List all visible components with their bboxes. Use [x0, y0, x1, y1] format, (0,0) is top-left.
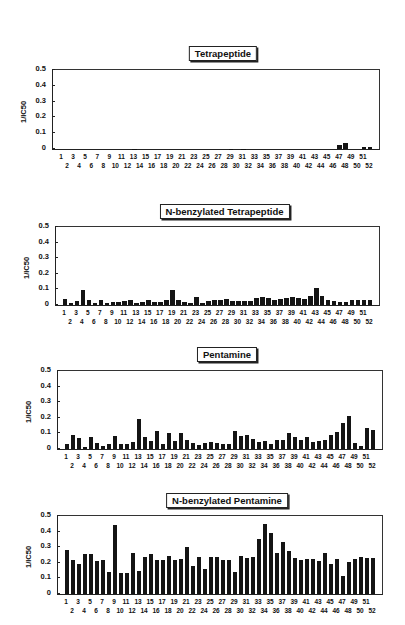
bar: [83, 554, 88, 594]
bar: [347, 562, 352, 594]
x-tick-label: 6: [94, 607, 98, 614]
x-tick-label: 49: [350, 453, 357, 460]
x-tick-label: 47: [338, 453, 345, 460]
bar: [242, 301, 247, 305]
y-tick-label: 0.2: [29, 268, 49, 277]
x-tick-label: 28: [222, 318, 229, 325]
x-tick-label: 37: [278, 453, 285, 460]
x-tick-label: 7: [100, 598, 104, 605]
y-tick-mark: [57, 531, 60, 532]
y-tick-label: 0.5: [31, 365, 51, 374]
bar: [143, 557, 148, 594]
bar: [209, 557, 214, 594]
bar: [137, 571, 142, 594]
x-tick-label: 50: [353, 162, 360, 169]
bar: [173, 560, 178, 594]
bar: [143, 437, 148, 449]
x-tick-label: 33: [251, 153, 258, 160]
x-tick-label: 4: [80, 318, 84, 325]
x-tick-label: 5: [88, 453, 92, 460]
bar: [116, 302, 121, 305]
bar: [101, 560, 106, 594]
x-tick-label: 45: [326, 453, 333, 460]
y-tick-label: 0.3: [26, 96, 46, 105]
x-tick-label: 38: [284, 462, 291, 469]
bar: [269, 444, 274, 449]
x-tick-label: 4: [77, 162, 81, 169]
y-tick-label: 0.4: [26, 80, 46, 89]
x-tick-label: 7: [98, 309, 102, 316]
bar: [71, 435, 76, 449]
x-tick-label: 34: [260, 607, 267, 614]
x-tick-label: 27: [218, 453, 225, 460]
bar: [248, 301, 253, 305]
x-tick-label: 22: [188, 462, 195, 469]
x-tick-label: 41: [300, 309, 307, 316]
bar: [368, 147, 373, 149]
bar: [149, 554, 154, 594]
y-axis-label: 1/IC50: [24, 546, 33, 568]
bar: [221, 560, 226, 594]
plot-area: [57, 370, 383, 450]
bar: [119, 444, 124, 449]
x-tick-label: 45: [326, 598, 333, 605]
x-tick-label: 26: [212, 462, 219, 469]
x-tick-label: 48: [344, 462, 351, 469]
y-tick-mark: [52, 69, 55, 70]
bar: [299, 440, 304, 449]
x-tick-label: 28: [224, 607, 231, 614]
x-tick-label: 30: [233, 162, 240, 169]
bar: [299, 560, 304, 594]
y-tick-mark: [52, 116, 55, 117]
y-tick-label: 0.3: [31, 541, 51, 550]
x-tick-label: 30: [234, 318, 241, 325]
x-tick-label: 3: [76, 453, 80, 460]
bar: [311, 442, 316, 449]
bar: [65, 550, 70, 594]
x-tick-label: 19: [166, 153, 173, 160]
y-tick-mark: [57, 417, 60, 418]
x-tick-label: 21: [178, 153, 185, 160]
x-tick-label: 46: [332, 607, 339, 614]
y-tick-mark: [57, 432, 60, 433]
x-tick-label: 19: [170, 598, 177, 605]
x-tick-label: 29: [230, 453, 237, 460]
bar: [227, 444, 232, 449]
y-tick-mark: [57, 593, 60, 594]
x-tick-label: 16: [148, 162, 155, 169]
x-tick-label: 36: [270, 318, 277, 325]
bar: [338, 302, 343, 305]
bar: [317, 561, 322, 594]
bar: [335, 559, 340, 594]
x-tick-label: 27: [214, 153, 221, 160]
x-tick-label: 1: [64, 598, 68, 605]
x-tick-label: 36: [272, 607, 279, 614]
x-tick-label: 25: [202, 153, 209, 160]
bar: [275, 553, 280, 594]
y-tick-label: 0.2: [26, 111, 46, 120]
x-tick-label: 2: [70, 462, 74, 469]
bar: [343, 143, 348, 149]
x-tick-label: 34: [260, 462, 267, 469]
x-tick-label: 30: [236, 462, 243, 469]
x-tick-label: 14: [138, 318, 145, 325]
x-tick-label: 2: [70, 607, 74, 614]
x-tick-label: 15: [146, 453, 153, 460]
bar: [233, 431, 238, 449]
bar: [111, 302, 116, 305]
x-tick-label: 23: [194, 598, 201, 605]
x-tick-label: 48: [344, 607, 351, 614]
bar: [341, 423, 346, 449]
bar: [305, 437, 310, 449]
bar: [87, 300, 92, 305]
x-tick-label: 8: [104, 318, 108, 325]
y-tick-label: 0: [31, 443, 51, 452]
bar: [224, 299, 229, 305]
bar: [131, 553, 136, 594]
x-tick-label: 21: [182, 453, 189, 460]
bar: [293, 437, 298, 449]
x-tick-label: 21: [180, 309, 187, 316]
y-tick-label: 0.3: [29, 252, 49, 261]
x-tick-label: 50: [356, 607, 363, 614]
bar: [206, 301, 211, 305]
